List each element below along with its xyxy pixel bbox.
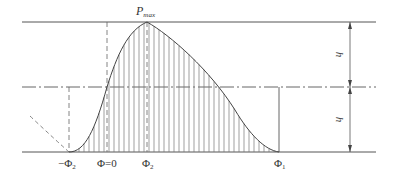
arrow-mid-down-icon: [348, 87, 352, 94]
phi1-label: Φ1: [274, 158, 286, 171]
arrow-bottom-icon: [348, 145, 352, 152]
cam-profile-diagram: [0, 0, 394, 181]
h-upper-label: h: [334, 52, 345, 58]
h-lower-label: h: [334, 117, 345, 123]
neg-phi2-label: −Φ2: [58, 158, 76, 171]
phi2-label: Φ2: [142, 158, 154, 171]
phi0-label: Φ=0: [97, 158, 117, 169]
curve-extension-dashed: [30, 116, 69, 152]
arrow-mid-up-icon: [348, 80, 352, 87]
arrow-top-icon: [348, 22, 352, 29]
pmax-label: Pmax: [136, 5, 155, 19]
hatched-area: [74, 23, 274, 152]
